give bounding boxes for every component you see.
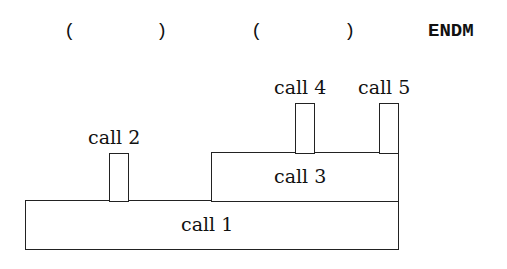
open-paren-2: (	[251, 20, 262, 42]
call-3-label: call 3	[274, 165, 326, 187]
call-2-box	[109, 153, 129, 202]
endm-keyword: ENDM	[428, 20, 474, 42]
close-paren-1: )	[156, 20, 167, 42]
call-1-label: call 1	[181, 213, 233, 235]
open-paren-1: (	[64, 20, 75, 42]
call-4-label: call 4	[274, 76, 326, 98]
call-5-box	[379, 103, 399, 154]
call-4-box	[295, 103, 315, 154]
close-paren-2: )	[344, 20, 355, 42]
call-2-label: call 2	[88, 126, 140, 148]
call-5-label: call 5	[358, 76, 410, 98]
